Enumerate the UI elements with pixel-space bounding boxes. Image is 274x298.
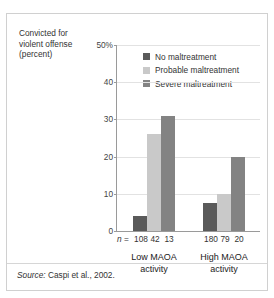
y-axis-title: Convicted for violent offense (percent) — [19, 28, 99, 60]
y-tick-label-20: 20 — [104, 152, 113, 162]
source-word: Source: — [17, 270, 46, 280]
y-tick-mark-0 — [114, 231, 117, 232]
y-axis-title-line-1: Convicted for — [19, 28, 99, 39]
n-equals: = — [122, 234, 129, 244]
plot-area: 01020304050% — [117, 45, 260, 231]
n-prefix: n = — [117, 234, 129, 244]
y-tick-mark-40 — [114, 82, 117, 83]
y-tick-label-40: 40 — [104, 77, 113, 87]
source-note: Source: Caspi et al., 2002. — [17, 270, 115, 280]
bar-high-maoa-probable-maltreatment — [217, 194, 231, 231]
bar-high-maoa-no-maltreatment — [203, 203, 217, 231]
x-axis-label-line-0: Low MAOA — [131, 252, 177, 264]
y-tick-mark-30 — [114, 119, 117, 120]
x-axis-label-line-0: High MAOA — [200, 252, 248, 264]
n-value-3: 180 — [204, 234, 218, 244]
y-tick-mark-20 — [114, 157, 117, 158]
gridline-30 — [117, 119, 260, 120]
y-tick-label-30: 30 — [104, 114, 113, 124]
y-tick-label-50: 50% — [96, 40, 113, 50]
gridline-50 — [117, 45, 260, 46]
gridline-40 — [117, 82, 260, 83]
y-axis-line — [116, 45, 117, 231]
y-tick-label-0: 0 — [108, 226, 113, 236]
footer-divider — [7, 263, 267, 264]
y-tick-mark-50 — [114, 45, 117, 46]
n-value-4: 79 — [220, 234, 229, 244]
figure-panel: Convicted for violent offense (percent) … — [6, 13, 268, 291]
bar-low-maoa-no-maltreatment — [133, 216, 147, 231]
n-value-1: 42 — [150, 234, 159, 244]
y-tick-label-10: 10 — [104, 189, 113, 199]
y-axis-title-line-2: violent offense — [19, 39, 99, 50]
n-value-0: 108 — [134, 234, 148, 244]
n-value-5: 20 — [234, 234, 243, 244]
x-axis-label-line-1: activity — [200, 264, 248, 276]
n-value-2: 13 — [164, 234, 173, 244]
x-axis-line — [116, 231, 260, 232]
y-axis-title-line-3: (percent) — [19, 49, 99, 60]
x-axis-label-line-1: activity — [131, 264, 177, 276]
bar-high-maoa-severe-maltreatment — [231, 157, 245, 231]
bar-low-maoa-severe-maltreatment — [161, 116, 175, 231]
source-citation: Caspi et al., 2002. — [46, 270, 115, 280]
y-tick-mark-10 — [114, 194, 117, 195]
bar-low-maoa-probable-maltreatment — [147, 134, 161, 231]
